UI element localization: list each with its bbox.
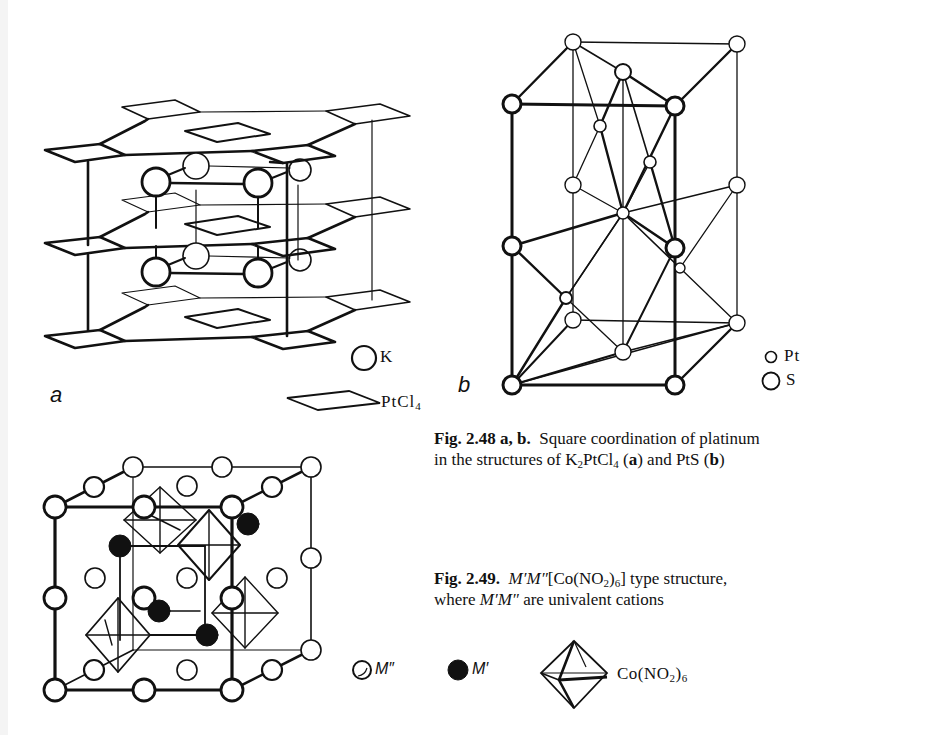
k-legend-label: K [380, 347, 393, 367]
pt-atom-legend-icon [766, 352, 777, 363]
figure-2-49-caption: Fig. 2.49. M′M″[Co(NO2)6] type structure… [434, 568, 864, 610]
k-atom-legend-icon [352, 346, 376, 370]
figure-2-48a-k2ptcl4-diagram [0, 0, 949, 735]
ptcl4-square-legend-icon [287, 391, 380, 410]
m-double-prime-legend-label: M″ [375, 660, 394, 678]
co-no2-6-legend-label: Co(NO2)6 [617, 664, 688, 684]
pt-legend-label: Pt [784, 346, 800, 366]
m-double-prime-sphere-legend-icon [353, 661, 371, 679]
figure-number: Fig. 2.49. [434, 569, 500, 588]
figure-2-48-caption: Fig. 2.48 a, b. Square coordination of p… [434, 428, 864, 470]
ptcl4-legend-label: PtCl4 [381, 392, 422, 412]
s-atom-legend-icon [763, 373, 780, 390]
octahedron-legend-icon [541, 641, 607, 708]
m-prime-sphere-legend-icon [448, 660, 468, 680]
panel-label-b: b [458, 372, 470, 398]
m-prime-legend-label: M′ [472, 660, 488, 678]
figure-number: Fig. 2.48 [434, 429, 496, 448]
s-legend-label: S [786, 370, 796, 390]
panel-label-a: a [50, 382, 62, 408]
